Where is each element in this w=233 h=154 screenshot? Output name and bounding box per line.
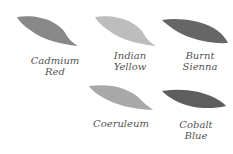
cobalt-blue-label: CobaltBlue — [161, 119, 231, 141]
coeruleum-label: Coeruleum — [86, 118, 156, 129]
cadmium-red-label: CadmiumRed — [20, 55, 90, 77]
cadmium-red-swatch — [15, 14, 80, 49]
indian-yellow-swatch — [93, 14, 158, 49]
cobalt-blue-swatch — [160, 88, 228, 114]
coeruleum-swatch — [87, 83, 155, 113]
indian-yellow-label: IndianYellow — [95, 50, 165, 72]
burnt-sienna-label: BurntSienna — [165, 50, 233, 72]
burnt-sienna-swatch — [160, 17, 230, 47]
